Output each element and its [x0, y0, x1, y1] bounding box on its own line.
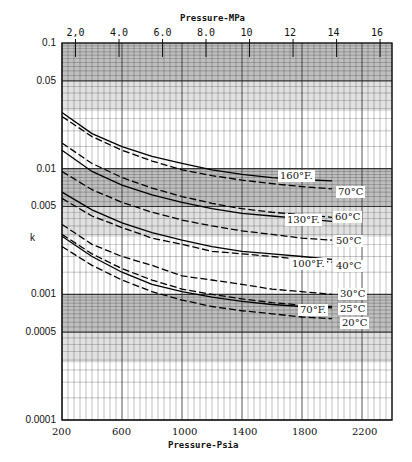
x-tick-label: 1400: [232, 427, 257, 437]
curve-label-50c: 50°C: [334, 235, 363, 247]
curve-label-40c: 40°C: [334, 260, 363, 272]
x-tick-label: 1800: [292, 427, 317, 437]
x2-tick-label: 8.0: [197, 28, 215, 38]
y-tick-label: 0.001: [31, 288, 56, 299]
y-tick-label: 0.05: [37, 75, 56, 86]
x2-tick-label: 12: [284, 28, 296, 38]
chart-plot-area: [0, 0, 412, 462]
x2-axis-title: Pressure-MPa: [180, 13, 245, 23]
y-axis-title: k: [30, 233, 35, 243]
x-tick-label: 600: [112, 427, 131, 437]
x2-tick-label: 2,0: [67, 28, 85, 38]
curve-label-60c: 60°C: [333, 211, 362, 223]
curve-label-100f: 100°F.: [290, 258, 327, 270]
curve-label-70f: 70°F.: [298, 304, 328, 316]
x-tick-label: 200: [52, 427, 71, 437]
x-axis-title: Pressure-Psia: [168, 440, 238, 450]
x2-tick-label: 10: [241, 28, 253, 38]
curve-label-160f: 160°F.: [278, 170, 315, 182]
x2-tick-label: 16: [371, 28, 383, 38]
x2-tick-label: 6.0: [154, 28, 172, 38]
curve-label-25c: 25°C: [338, 303, 367, 315]
y-tick-label: 0.005: [31, 200, 56, 211]
y-tick-label: 0.0001: [25, 414, 56, 425]
x-tick-label: 2200: [352, 427, 377, 437]
x2-tick-label: 14: [328, 28, 340, 38]
curve-label-130f: 130°F.: [285, 214, 322, 226]
x2-tick-label: 4.0: [110, 28, 128, 38]
y-tick-label: 0.1: [42, 37, 56, 48]
y-tick-label: 0.0005: [25, 326, 56, 337]
curve-label-30c: 30°C: [338, 288, 367, 300]
curve-label-20c: 20°C: [340, 317, 369, 329]
y-tick-label: 0.01: [37, 163, 56, 174]
x-tick-label: 1000: [172, 427, 197, 437]
curve-label-70c: 70°C: [336, 186, 365, 198]
